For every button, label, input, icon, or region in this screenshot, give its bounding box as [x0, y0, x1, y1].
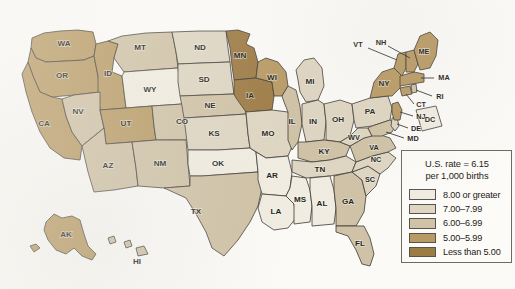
legend-label: 5.00–5.99 — [443, 233, 482, 243]
state-label-LA: LA — [271, 207, 282, 216]
state-label-TN: TN — [315, 165, 326, 174]
state-label-PA: PA — [365, 107, 376, 116]
state-label-AR: AR — [266, 171, 278, 180]
state-label-OK: OK — [212, 159, 224, 168]
state-HI-island-3 — [136, 246, 148, 256]
state-label-NV: NV — [72, 107, 84, 116]
state-MA[interactable] — [400, 72, 424, 86]
state-label-HI: HI — [133, 257, 141, 266]
state-label-ND: ND — [194, 43, 206, 52]
legend-items: 8.00 or greater7.00–7.996.00–6.995.00–5.… — [409, 187, 505, 259]
legend-label: 8.00 or greater — [443, 190, 500, 200]
map-figure: WA OR CA ID NV MT WY UT AZ CO NM ND SD N… — [0, 0, 515, 289]
state-label-DE: DE — [411, 124, 421, 133]
state-label-AZ: AZ — [103, 161, 114, 170]
state-label-DC: DC — [425, 115, 436, 124]
state-label-IN: IN — [309, 117, 317, 126]
state-HI-island-2 — [124, 240, 132, 248]
state-NJ[interactable] — [392, 102, 402, 120]
state-label-CO: CO — [176, 117, 188, 126]
state-label-TX: TX — [191, 207, 202, 216]
legend-title-line2: per 1,000 births — [409, 170, 505, 182]
state-label-SD: SD — [198, 75, 209, 84]
legend-row[interactable]: Less than 5.00 — [409, 245, 505, 259]
state-label-MS: MS — [294, 195, 307, 204]
legend-title-line1: U.S. rate = 6.15 — [409, 158, 505, 170]
state-label-IA: IA — [246, 91, 254, 100]
state-RI[interactable] — [411, 84, 417, 93]
state-label-UT: UT — [121, 119, 132, 128]
state-label-NE: NE — [204, 101, 216, 110]
state-label-MN: MN — [234, 51, 247, 60]
leader-line-RI — [416, 90, 432, 96]
state-label-NM: NM — [154, 159, 167, 168]
legend-row[interactable]: 7.00–7.99 — [409, 202, 505, 216]
legend-row[interactable]: 8.00 or greater — [409, 187, 505, 201]
legend-title: U.S. rate = 6.15 per 1,000 births — [409, 158, 505, 182]
leader-line-NJ — [400, 112, 413, 116]
state-label-WA: WA — [57, 39, 70, 48]
legend-swatch — [409, 247, 436, 258]
leader-line-VT — [368, 48, 397, 60]
state-label-OH: OH — [332, 115, 344, 124]
legend-swatch — [409, 233, 436, 244]
state-label-VT: VT — [353, 40, 363, 49]
legend-row[interactable]: 6.00–6.99 — [409, 216, 505, 230]
state-label-IL: IL — [288, 117, 295, 126]
state-label-WY: WY — [143, 85, 157, 94]
state-label-KS: KS — [208, 129, 220, 138]
state-label-WV: WV — [348, 133, 360, 142]
state-label-ID: ID — [104, 69, 112, 78]
leader-line-CT — [406, 94, 414, 104]
state-label-NC: NC — [371, 155, 382, 164]
legend-label: Less than 5.00 — [443, 247, 501, 257]
leader-line-MD — [386, 132, 404, 138]
state-label-RI: RI — [436, 92, 443, 101]
legend-label: 6.00–6.99 — [443, 218, 482, 228]
state-label-NY: NY — [378, 79, 390, 88]
state-label-AK: AK — [60, 230, 72, 239]
state-label-GA: GA — [342, 197, 354, 206]
legend-swatch — [409, 204, 436, 215]
map-legend: U.S. rate = 6.15 per 1,000 births 8.00 o… — [401, 150, 512, 263]
state-label-OR: OR — [56, 71, 68, 80]
state-HI[interactable] — [108, 236, 116, 244]
state-label-FL: FL — [355, 239, 365, 248]
legend-swatch — [409, 218, 436, 229]
state-label-AL: AL — [317, 199, 328, 208]
state-label-MO: MO — [261, 129, 274, 138]
state-label-KY: KY — [318, 147, 330, 156]
state-label-ME: ME — [419, 47, 430, 56]
state-label-CA: CA — [38, 119, 50, 128]
state-label-MT: MT — [134, 43, 146, 52]
legend-label: 7.00–7.99 — [443, 204, 482, 214]
state-AK-aleutians — [30, 244, 40, 252]
state-label-CT: CT — [416, 100, 426, 109]
state-label-MI: MI — [306, 77, 315, 86]
state-label-SC: SC — [365, 175, 376, 184]
legend-swatch — [409, 189, 436, 200]
state-label-WI: WI — [267, 73, 277, 82]
state-label-MA: MA — [438, 73, 450, 82]
state-label-NH: NH — [376, 38, 387, 47]
state-label-VA: VA — [369, 143, 379, 152]
legend-row[interactable]: 5.00–5.99 — [409, 231, 505, 245]
state-label-MD: MD — [407, 134, 418, 143]
